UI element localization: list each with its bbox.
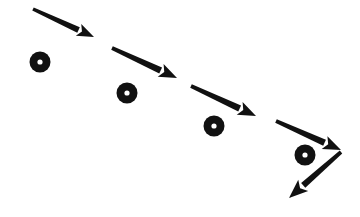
ring-marker-4-hole xyxy=(302,152,307,157)
ring-marker-3 xyxy=(204,116,225,137)
ring-marker-2-hole xyxy=(124,90,129,95)
ring-marker-4 xyxy=(295,145,316,166)
arrow-cascade-diagram xyxy=(0,0,360,217)
ring-marker-1 xyxy=(30,52,51,73)
figure-root xyxy=(0,0,360,217)
ring-marker-3-hole xyxy=(211,123,216,128)
ring-marker-1-hole xyxy=(37,59,42,64)
ring-marker-2 xyxy=(117,83,138,104)
